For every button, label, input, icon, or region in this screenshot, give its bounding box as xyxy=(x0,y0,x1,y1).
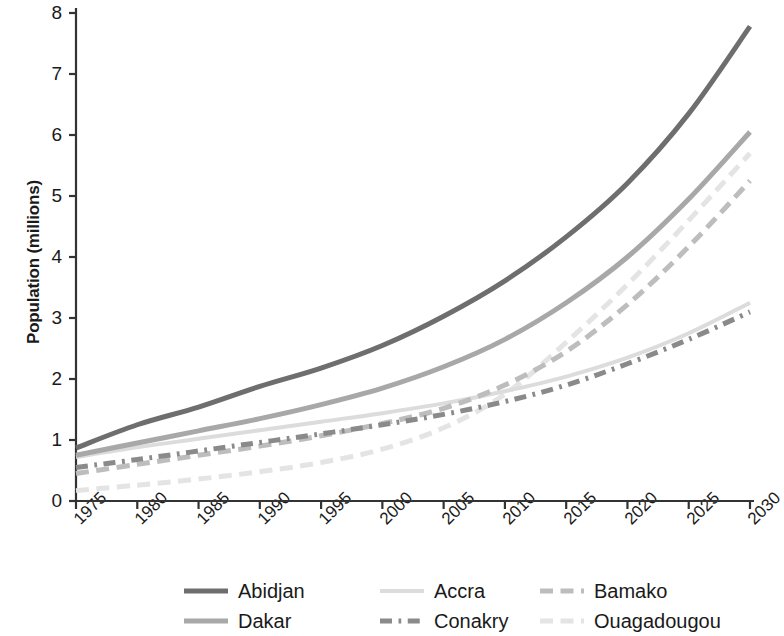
legend-swatch-accra-icon xyxy=(379,584,425,598)
legend-label: Conakry xyxy=(434,610,508,633)
legend-label: Accra xyxy=(434,580,485,603)
legend-label: Bamako xyxy=(594,580,667,603)
legend-item-dakar[interactable]: Dakar xyxy=(183,606,291,636)
legend-item-conakry[interactable]: Conakry xyxy=(379,606,508,636)
legend-label: Dakar xyxy=(238,610,291,633)
chart-legend: AbidjanAccraBamakoDakarConakryOuagadougo… xyxy=(183,576,743,636)
legend-swatch-bamako-icon xyxy=(539,584,585,598)
legend-item-accra[interactable]: Accra xyxy=(379,576,485,606)
legend-swatch-dakar-icon xyxy=(183,614,229,628)
legend-row: AbidjanAccraBamako xyxy=(183,576,743,606)
legend-item-ouagadougou[interactable]: Ouagadougou xyxy=(539,606,721,636)
legend-swatch-abidjan-icon xyxy=(183,584,229,598)
legend-item-bamako[interactable]: Bamako xyxy=(539,576,667,606)
legend-item-abidjan[interactable]: Abidjan xyxy=(183,576,305,606)
legend-label: Ouagadougou xyxy=(594,610,721,633)
legend-row: DakarConakryOuagadougou xyxy=(183,606,743,636)
legend-swatch-conakry-icon xyxy=(379,614,425,628)
legend-label: Abidjan xyxy=(238,580,305,603)
series-line-conakry xyxy=(76,312,750,468)
series-line-bamako xyxy=(76,181,750,474)
legend-swatch-ouagadougou-icon xyxy=(539,614,585,628)
